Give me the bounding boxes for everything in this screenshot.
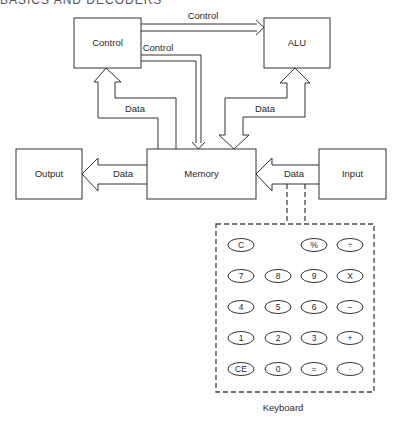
key-8[interactable]: 8 <box>265 270 291 283</box>
output-block: Output <box>16 149 82 199</box>
key-percent[interactable]: % <box>301 239 327 252</box>
key-multiply[interactable]: X <box>337 270 363 283</box>
key-9[interactable]: 9 <box>301 270 327 283</box>
key-7[interactable]: 7 <box>228 270 254 283</box>
key-equals[interactable]: = <box>301 363 327 376</box>
control-to-alu-label: Control <box>188 10 219 21</box>
svg-text:+: + <box>348 333 353 343</box>
svg-text:C: C <box>238 240 244 250</box>
key-decimal[interactable]: · <box>337 363 363 376</box>
keyboard-connector <box>287 184 305 224</box>
key-3[interactable]: 3 <box>301 332 327 345</box>
svg-text:−: − <box>348 302 353 312</box>
control-to-alu-arrow: Control <box>141 10 264 35</box>
control-to-memory-label: Control <box>143 42 174 53</box>
svg-text:7: 7 <box>239 271 244 281</box>
input-memory-data-label: Data <box>284 168 305 179</box>
key-ce[interactable]: CE <box>228 363 254 376</box>
svg-text:2: 2 <box>276 333 281 343</box>
svg-text:9: 9 <box>312 271 317 281</box>
memory-control-data-label: Data <box>125 103 146 114</box>
output-block-label: Output <box>35 168 64 179</box>
memory-output-data-label: Data <box>113 168 134 179</box>
svg-text:5: 5 <box>276 302 281 312</box>
svg-text:1: 1 <box>239 333 244 343</box>
memory-block-label: Memory <box>184 168 219 179</box>
svg-text:=: = <box>312 364 317 374</box>
key-divide[interactable]: ÷ <box>337 239 363 252</box>
alu-block: ALU <box>264 18 330 68</box>
memory-to-output-data-arrow: Data <box>82 158 147 191</box>
key-1[interactable]: 1 <box>228 332 254 345</box>
svg-text:6: 6 <box>312 302 317 312</box>
alu-block-label: ALU <box>288 37 307 48</box>
control-block-label: Control <box>92 37 123 48</box>
svg-text:0: 0 <box>276 364 281 374</box>
key-0[interactable]: 0 <box>265 363 291 376</box>
svg-text:X: X <box>347 271 353 281</box>
memory-alu-data-label: Data <box>255 103 276 114</box>
svg-text:÷: ÷ <box>348 240 353 250</box>
key-2[interactable]: 2 <box>265 332 291 345</box>
control-block: Control <box>74 18 141 68</box>
key-5[interactable]: 5 <box>265 301 291 314</box>
key-c[interactable]: C <box>228 239 254 252</box>
svg-text:CE: CE <box>235 364 247 374</box>
svg-text:3: 3 <box>312 333 317 343</box>
keyboard-label: Keyboard <box>263 402 304 413</box>
memory-block: Memory <box>147 149 256 199</box>
memory-to-control-data-arrow: Data <box>94 68 176 149</box>
keyboard-keys: C % ÷ 7 8 9 X 4 5 6 − 1 2 3 + CE 0 = · <box>228 239 363 376</box>
svg-text:4: 4 <box>239 302 244 312</box>
key-plus[interactable]: + <box>337 332 363 345</box>
key-6[interactable]: 6 <box>301 301 327 314</box>
memory-alu-data-arrow: Data <box>219 68 310 149</box>
svg-text:%: % <box>310 240 318 250</box>
input-block: Input <box>319 149 386 199</box>
svg-text:·: · <box>349 364 352 374</box>
computer-block-diagram: Control Control Data Data Data Data Cont… <box>0 0 400 423</box>
input-block-label: Input <box>342 168 363 179</box>
key-4[interactable]: 4 <box>228 301 254 314</box>
key-minus[interactable]: − <box>337 301 363 314</box>
svg-text:8: 8 <box>276 271 281 281</box>
